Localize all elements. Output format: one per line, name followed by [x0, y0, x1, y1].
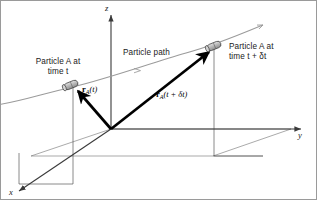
- left-projection-box: [19, 87, 73, 184]
- vector-r-a-t-plus-dt-argument: (t + δt): [163, 90, 187, 99]
- particle-path-label: Particle path: [123, 48, 170, 58]
- particle-a-t-label-line1: Particle A at: [19, 57, 97, 67]
- particle-a-t-plus-dt-marker: [205, 40, 222, 52]
- particle-a-t-marker: [62, 79, 79, 91]
- vector-r-a-t-argument: (t): [89, 85, 97, 94]
- vector-r-a-t-plus-dt-label: rA(t + δt): [156, 90, 187, 100]
- particle-a-t-label: Particle A at time t: [19, 57, 97, 77]
- path-direction-arrow-icon: [134, 68, 141, 72]
- particle-a-t-plus-dt-label-line2: time t + δt: [229, 52, 274, 62]
- y-axis-label: y: [298, 130, 302, 140]
- particle-a-t-plus-dt-label: Particle A at time t + δt: [229, 42, 274, 62]
- particle-a-t-label-line2: time t: [19, 67, 97, 77]
- physics-figure: Particle A at time t Particle A at time …: [0, 0, 317, 200]
- vector-r-a-t-label: rA(t): [82, 85, 97, 95]
- ground-plane-construction: [31, 129, 291, 156]
- vector-r-a-t-arrow: [78, 91, 111, 129]
- particle-a-t-plus-dt-label-line1: Particle A at: [229, 42, 274, 52]
- figure-canvas: [1, 1, 317, 200]
- x-axis-label: x: [9, 187, 13, 197]
- x-axis: [19, 129, 111, 191]
- right-projection-box: [214, 48, 263, 156]
- z-axis-label: z: [105, 3, 108, 13]
